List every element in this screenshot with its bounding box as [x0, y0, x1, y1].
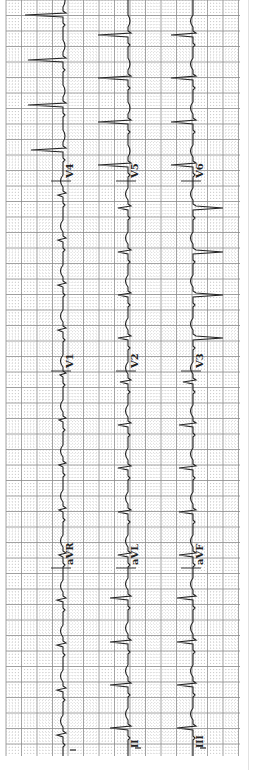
lead-label-v3: V3 — [194, 353, 205, 369]
ecg-tracing: aVRV1V4aVLV2V5aVFV3V6IIIII — [0, 0, 256, 770]
lead-label-v4: V4 — [64, 163, 75, 179]
ecg-trace — [171, 0, 223, 756]
lead-label-avl: aVL — [129, 544, 140, 565]
lead-label-avf: aVF — [194, 544, 205, 565]
rhythm-label: II — [130, 740, 140, 748]
lead-label-v6: V6 — [194, 163, 205, 179]
calibration-mark-2: II — [130, 740, 141, 748]
ecg-column-1: aVRV1V4 — [25, 0, 75, 756]
lead-label-v5: V5 — [129, 163, 140, 179]
rhythm-label: III — [195, 735, 205, 748]
lead-label-v2: V2 — [129, 353, 140, 369]
ecg-grid — [6, 0, 240, 756]
lead-label-avr: aVR — [64, 542, 75, 565]
lead-label-v1: V1 — [64, 353, 75, 369]
ecg-column-3: aVFV3V6 — [171, 0, 223, 756]
ecg-column-2: aVLV2V5 — [98, 0, 140, 756]
calibration-mark-3: III — [195, 735, 206, 748]
page-edge — [248, 0, 249, 770]
